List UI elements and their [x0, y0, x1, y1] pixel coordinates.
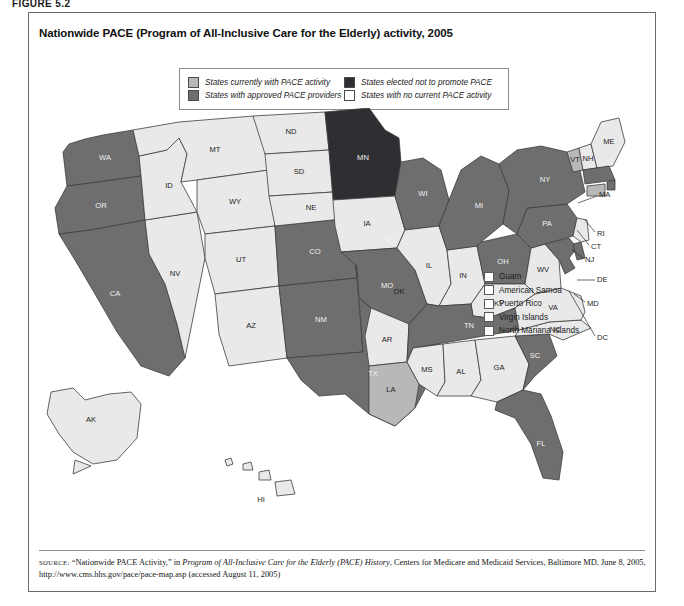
- state-UT: [205, 226, 279, 294]
- territory-swatch: [484, 299, 494, 309]
- legend-swatch-current-activity: [188, 77, 199, 88]
- legend-label-current-activity: States currently with PACE activity: [205, 78, 330, 87]
- legend-item-not-promote: States elected not to promote PACE: [344, 77, 500, 88]
- source-divider: [39, 550, 645, 551]
- state-callout-DE: DE: [597, 275, 608, 284]
- legend-swatch-no-activity: [344, 90, 355, 101]
- state-FL: [495, 390, 563, 480]
- state-callout-CT: CT: [591, 242, 601, 251]
- territory-label-north-mariana-islands: North Mariana Islands: [499, 326, 579, 335]
- legend-swatch-approved-providers: [188, 90, 199, 101]
- state-callout-NJ: NJ: [585, 255, 594, 264]
- legend-item-no-activity: States with no current PACE activity: [344, 90, 500, 101]
- figure-title: Nationwide PACE (Program of All-Inclusiv…: [39, 27, 453, 39]
- territories-legend: Guam American Samoa Puerto Rico Virgin I…: [484, 268, 579, 339]
- source-text-1: “Nationwide PACE Activity,” in: [70, 558, 183, 567]
- legend-label-no-activity: States with no current PACE activity: [361, 91, 491, 100]
- territory-item-guam: Guam: [484, 272, 579, 282]
- state-WY: [197, 170, 275, 234]
- territory-label-puerto-rico: Puerto Rico: [499, 299, 542, 308]
- state-AK: [47, 388, 141, 474]
- territory-swatch: [484, 326, 494, 336]
- state-WI: [395, 158, 449, 230]
- territory-swatch: [484, 312, 494, 322]
- source-prefix: SOURCE:: [39, 559, 70, 566]
- map-legend: States currently with PACE activity Stat…: [179, 68, 509, 110]
- legend-label-not-promote: States elected not to promote PACE: [361, 78, 492, 87]
- state-DE: [573, 242, 585, 260]
- territory-item-american-samoa: American Samoa: [484, 285, 579, 295]
- state-SD: [265, 150, 333, 196]
- state-MI: [439, 156, 509, 250]
- state-ME: [591, 118, 625, 168]
- legend-item-current-activity: States currently with PACE activity: [188, 77, 344, 88]
- state-HI: [225, 458, 295, 496]
- territory-swatch: [484, 285, 494, 295]
- territory-item-virgin-islands: Virgin Islands: [484, 312, 579, 322]
- state-IA: [333, 196, 405, 252]
- source-note: SOURCE: “Nationwide PACE Activity,” in P…: [39, 557, 647, 581]
- state-callout-MD: MD: [587, 299, 599, 308]
- territory-label-guam: Guam: [499, 272, 521, 281]
- territory-item-puerto-rico: Puerto Rico: [484, 299, 579, 309]
- territory-swatch: [484, 272, 494, 282]
- figure-number: FIGURE 5.2: [12, 0, 70, 9]
- legend-row: States with approved PACE providers Stat…: [188, 90, 500, 101]
- legend-label-approved-providers: States with approved PACE providers: [205, 91, 341, 100]
- legend-row: States currently with PACE activity Stat…: [188, 77, 500, 88]
- legend-swatch-not-promote: [344, 77, 355, 88]
- state-MN: [325, 108, 401, 200]
- state-label-HI: HI: [257, 495, 265, 504]
- callout-labels: MA RI CT NJ DE MD DC: [585, 190, 611, 342]
- source-italic-title: Program of All-Inclusive Care for the El…: [182, 558, 389, 567]
- territory-label-virgin-islands: Virgin Islands: [499, 313, 548, 322]
- state-ND: [253, 112, 329, 154]
- state-RI: [607, 180, 615, 190]
- state-callout-MA: MA: [599, 190, 611, 199]
- figure-container: Nationwide PACE (Program of All-Inclusiv…: [28, 12, 656, 592]
- territory-item-north-mariana-islands: North Mariana Islands: [484, 326, 579, 336]
- state-callout-DC: DC: [597, 333, 608, 342]
- legend-item-approved-providers: States with approved PACE providers: [188, 90, 344, 101]
- state-AZ: [215, 286, 287, 366]
- state-LA: [369, 362, 419, 426]
- state-callout-RI: RI: [597, 229, 605, 238]
- territory-label-american-samoa: American Samoa: [499, 286, 562, 295]
- state-NM: [279, 278, 363, 358]
